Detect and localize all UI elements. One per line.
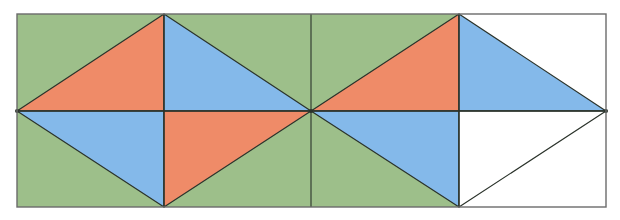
- diagram-canvas: [0, 0, 620, 220]
- rhombus-tiling-diagram: [0, 0, 620, 220]
- vertex-center-mid: [309, 109, 313, 113]
